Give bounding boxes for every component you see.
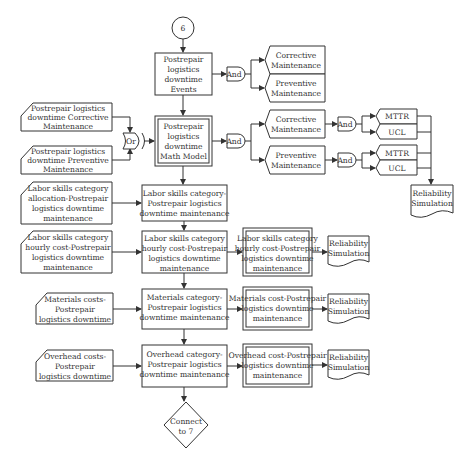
process-line: downtime maintenance: [139, 209, 230, 218]
input-line: Maintenance: [43, 165, 94, 174]
end-connector: Connect to 7: [164, 402, 208, 448]
output-labor-hourly: Labor skills category hourly cost-Postre…: [235, 228, 321, 276]
input-line: hourly cost-Postrepair: [25, 243, 111, 252]
preventive-mttr: MTTR: [376, 145, 417, 160]
reliability-simulation-overhead: Reliability Simulation: [328, 350, 370, 379]
input-line: Labor skills category: [28, 233, 110, 242]
input-labor-hourly: Labor skills category hourly cost-Postre…: [21, 231, 112, 273]
input-line: Materials costs-: [44, 295, 106, 304]
input-line: downtime Corrective: [27, 113, 109, 122]
input-line: downtime Preventive: [27, 156, 109, 165]
preventive-and-gate: And: [336, 153, 356, 167]
result-label: MTTR: [385, 149, 409, 158]
reliability-simulation-top: Reliability Simulation: [411, 185, 453, 217]
flowchart: 6 Postrepair logistics downtime Events A…: [0, 0, 474, 464]
output-line: Corrective: [276, 51, 317, 60]
doc-line: Simulation: [411, 199, 453, 208]
input-line: Labor skills category: [28, 184, 110, 193]
start-connector-label: 6: [181, 24, 186, 33]
preventive-ucl: UCL: [376, 160, 417, 175]
input-line: Overhead costs-: [44, 352, 106, 361]
events-box-line: Postrepair: [164, 55, 204, 64]
process-line: Labor skills category-: [143, 189, 227, 198]
process-line: downtime maintenance: [139, 313, 230, 322]
math-model-box: Postrepair logistics downtime Math Model: [155, 116, 212, 166]
input-line: logistics downtime: [32, 253, 105, 262]
events-output-preventive: Preventive Maintenance: [265, 74, 325, 102]
input-line: maintenance: [43, 263, 93, 272]
corrective-mttr: MTTR: [376, 109, 417, 124]
math-model-line: downtime: [165, 142, 204, 151]
result-label: UCL: [388, 164, 405, 173]
output-line: logistics downtime: [241, 361, 314, 370]
math-output-corrective: Corrective Maintenance: [265, 110, 325, 138]
output-line: hourly cost-Postrepair: [235, 244, 321, 253]
input-line: Postrepair: [55, 305, 95, 314]
output-line: maintenance: [253, 371, 303, 380]
output-line: Corrective: [276, 115, 317, 124]
output-line: Materials cost-Postrepair: [229, 294, 327, 303]
math-model-line: Postrepair: [164, 122, 204, 131]
or-gate: Or: [123, 133, 145, 149]
process-labor-hourly: Labor skills category hourly cost-Postre…: [142, 231, 228, 273]
doc-line: Reliability: [329, 239, 369, 248]
input-corrective: Postrepair logistics downtime Corrective…: [21, 103, 112, 131]
output-line: Labor skills category: [237, 234, 319, 243]
end-connector-line: Connect: [170, 417, 202, 426]
doc-line: Reliability: [412, 189, 452, 198]
start-connector: 6: [172, 17, 194, 39]
process-materials: Materials category- Postrepair logistics…: [139, 289, 230, 329]
doc-line: Simulation: [328, 249, 370, 258]
result-label: MTTR: [385, 112, 409, 121]
doc-line: Simulation: [328, 363, 370, 372]
input-preventive: Postrepair logistics downtime Preventive…: [21, 146, 112, 174]
events-box: Postrepair logistics downtime Events: [155, 53, 212, 95]
input-line: logistics downtime: [39, 315, 112, 324]
input-line: logistics downtime: [39, 372, 112, 381]
corrective-ucl: UCL: [376, 124, 417, 139]
corrective-and-gate: And: [336, 117, 356, 131]
input-line: Postrepair: [55, 362, 95, 371]
process-line: Postrepair logistics: [147, 360, 221, 369]
result-label: UCL: [388, 128, 405, 137]
output-line: maintenance: [253, 264, 303, 273]
gate-label: And: [225, 70, 241, 79]
output-line: logistics downtime: [241, 254, 314, 263]
doc-line: Reliability: [329, 353, 369, 362]
input-line: Maintenance: [43, 122, 94, 131]
output-line: Overhead cost-Postrepair: [228, 351, 326, 360]
input-line: maintenance: [43, 214, 93, 223]
process-overhead: Overhead category- Postrepair logistics …: [139, 345, 230, 387]
output-line: Maintenance: [271, 61, 322, 70]
process-line: Materials category-: [147, 293, 223, 302]
process-line: downtime maintenance: [139, 370, 230, 379]
gate-label: And: [336, 156, 352, 165]
output-line: Preventive: [275, 79, 317, 88]
input-overhead: Overhead costs- Postrepair logistics dow…: [36, 350, 113, 381]
output-line: Maintenance: [271, 125, 322, 134]
reliability-simulation-materials: Reliability Simulation: [328, 294, 370, 323]
process-line: logistics downtime: [148, 254, 221, 263]
input-materials: Materials costs- Postrepair logistics do…: [36, 293, 113, 324]
input-line: Postrepair logistics: [31, 147, 105, 156]
math-model-line: logistics: [168, 132, 200, 141]
output-line: Preventive: [275, 151, 317, 160]
process-line: Postrepair logistics: [147, 303, 221, 312]
reliability-simulation-labor: Reliability Simulation: [328, 236, 370, 266]
events-and-gate: And: [225, 67, 245, 81]
doc-line: Simulation: [328, 307, 370, 316]
output-materials: Materials cost-Postrepair logistics down…: [229, 287, 327, 330]
events-output-corrective: Corrective Maintenance: [265, 46, 325, 74]
process-line: Overhead category-: [146, 350, 223, 359]
input-line: allocation-Postrepair: [28, 194, 109, 203]
process-line: Postrepair logistics: [147, 199, 221, 208]
output-line: Maintenance: [271, 89, 322, 98]
math-and-gate: And: [225, 134, 245, 148]
events-box-line: Events: [170, 85, 196, 94]
output-line: maintenance: [253, 314, 303, 323]
process-line: maintenance: [160, 264, 210, 273]
process-line: hourly cost-Postrepair: [142, 244, 228, 253]
output-line: Maintenance: [271, 161, 322, 170]
gate-label: And: [336, 120, 352, 129]
gate-label: And: [225, 137, 241, 146]
